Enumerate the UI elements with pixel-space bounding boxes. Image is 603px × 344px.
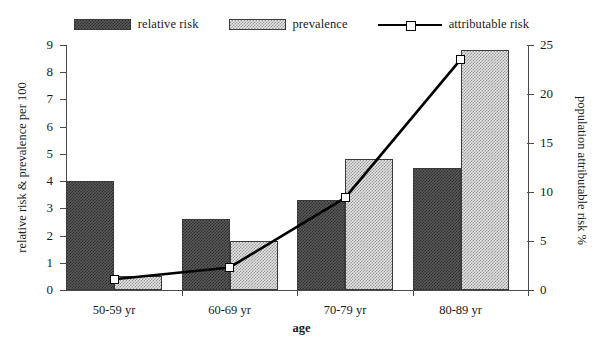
y-axis-left-tick-label: 1 [28,256,53,269]
x-axis-tick-label: 60-69 yr [170,303,290,318]
legend-swatch-relative-risk [74,19,131,30]
x-axis-tick [528,290,529,296]
line-marker-square-icon [225,263,234,272]
x-axis-tick-label: 80-89 yr [401,303,521,318]
x-axis-tick [297,290,298,296]
legend-item-attributable-risk[interactable]: attributable risk [378,17,530,32]
y-axis-left-tick-label: 5 [28,147,53,160]
y-axis-left-title: relative risk & prevalence per 100 [15,53,30,283]
x-axis-tick [413,290,414,296]
y-axis-right-tick-label: 5 [540,234,566,247]
y-axis-right-tick-label: 25 [540,38,566,51]
y-axis-right-tick [527,94,534,95]
y-axis-right-tick [527,192,534,193]
legend-marker-square-icon [406,21,416,31]
legend-label-prevalence: prevalence [293,17,348,32]
y-axis-right-tick-label: 15 [540,136,566,149]
y-axis-left-tick-label: 8 [28,65,53,78]
legend-label-attributable-risk: attributable risk [449,17,530,32]
y-axis-right-tick-label: 10 [540,185,566,198]
y-axis-right-line [528,45,529,290]
legend-item-prevalence[interactable]: prevalence [229,17,348,32]
plot-area [66,45,528,290]
chart-legend: relative risk prevalence attributable ri… [0,14,603,34]
x-axis-title: age [0,321,603,336]
line-marker-square-icon [341,193,350,202]
line-path [114,60,461,280]
y-axis-left-tick-label: 4 [28,174,53,187]
y-axis-right-tick [527,143,534,144]
chart-canvas: relative risk prevalence attributable ri… [0,0,603,344]
y-axis-left-tick-label: 0 [28,283,53,296]
y-axis-right-tick [527,45,534,46]
y-axis-right-tick-label: 20 [540,87,566,100]
legend-line-attributable-risk [378,19,442,30]
y-axis-right-tick-label: 0 [540,283,566,296]
y-axis-left-tick-label: 3 [28,201,53,214]
line-marker-square-icon [456,55,465,64]
y-axis-left-tick-label: 2 [28,229,53,242]
x-axis-tick-label: 50-59 yr [54,303,174,318]
y-axis-left-tick-label: 7 [28,92,53,105]
y-axis-left-tick-label: 6 [28,120,53,133]
y-axis-right-tick [527,241,534,242]
y-axis-right-title: population attributable risk % [574,56,589,286]
x-axis-tick-label: 70-79 yr [285,303,405,318]
legend-label-relative-risk: relative risk [138,17,199,32]
line-marker-square-icon [110,275,119,284]
legend-item-relative-risk[interactable]: relative risk [74,17,199,32]
legend-swatch-prevalence [229,19,286,30]
y-axis-left-tick [60,290,67,291]
line-series-attributable-risk [66,45,528,290]
y-axis-left-tick-label: 9 [28,38,53,51]
x-axis-tick [182,290,183,296]
